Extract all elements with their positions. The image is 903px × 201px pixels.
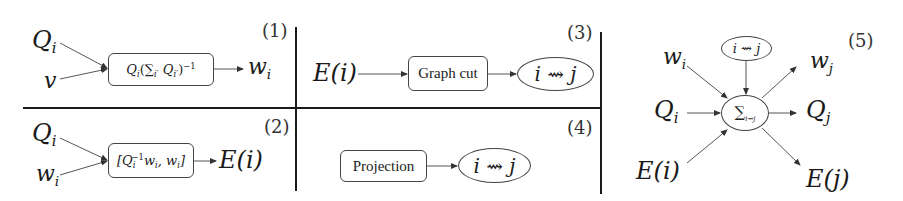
f1-sum: (∑ [140,62,154,77]
panel4-projection-box: Projection [340,150,427,182]
panel1-output-w-base: w [248,54,267,79]
panel4-projection-label: Projection [353,158,415,175]
panel1-input-q-base: Q [32,26,52,54]
f2-comma: , w [158,153,177,168]
panel3-output-label: i ⇝ j [534,62,576,86]
panel1-input-v: v [44,70,56,92]
arrow-sum-to-ej [762,128,800,165]
panel2-output-e: E(i) [219,148,263,172]
qj-base: Q [806,96,826,124]
panel5-output-qj: Qj [806,98,830,126]
wi-sub: i [682,56,686,72]
arrow-w-to-box2 [60,161,107,175]
f1-q: Q [126,62,137,77]
qj-sub: j [826,109,831,127]
f1-sup: −1 [183,61,195,71]
panel3-number: (3) [567,24,593,42]
panel2-input-q-sub: i [52,132,57,150]
panel4-output-ellipse: i ⇝ j [458,148,531,183]
wj-sub: j [829,60,833,76]
panel1-number: (1) [262,22,288,40]
panel5-number: (5) [848,32,874,50]
f2-close: ] [180,153,185,168]
panel3-output-ellipse: i ⇝ j [517,57,594,91]
arrow-q-to-box2 [60,138,107,160]
arrow-ei-to-sum [687,130,727,163]
sum-sub: i⇝j [745,115,755,123]
panel3-input-e: E(i) [313,61,357,85]
panel1-operation-formula: Qi(∑i′ Qi′)−1 [126,61,195,79]
panel5-top-label: i ⇝ j [733,41,760,56]
arrow-wi-to-sum [687,66,727,98]
f1-q2: Q [159,62,174,77]
f2-sup1: −1 [131,152,143,162]
wj-base: w [810,48,829,73]
panel5-input-ei: E(i) [636,159,680,183]
panel1-operation-box: Qi(∑i′ Qi′)−1 [108,53,214,86]
panel4-number: (4) [567,119,593,137]
panel2-number: (2) [264,118,290,136]
panel5-input-wi: wi [663,46,686,71]
panel4-output-label: i ⇝ j [473,154,515,178]
panel3-graph-cut-box: Graph cut [408,56,488,91]
panel1-input-q: Qi [32,28,56,56]
panel2-input-q-base: Q [32,119,52,147]
qi-sub: i [674,109,679,127]
panel1-output-w-sub: i [267,66,271,82]
sum-symbol: ∑ [735,103,746,121]
panel2-input-w-base: w [36,161,55,186]
panel1-output-w: wi [248,56,271,81]
panel5-output-wj: wj [810,50,833,75]
qi-base: Q [654,96,674,124]
panel5-sum-label: ∑i⇝j [735,103,756,123]
panel2-operation-formula: [Qi−1wi, wi] [117,152,185,170]
f2-w: w [144,153,155,168]
panel5-top-ellipse: i ⇝ j [721,36,772,61]
arrow-v-to-box1 [60,69,107,79]
panel2-operation-box: [Qi−1wi, wi] [108,143,194,178]
arrow-sum-to-wj [762,67,796,98]
panel1-input-q-sub: i [52,39,57,57]
wi-base: w [663,44,682,69]
panel2-input-w: wi [36,163,59,188]
arrow-q-to-box1 [60,43,107,68]
panel5-sum-ellipse: ∑i⇝j [721,95,769,131]
panel2-input-q: Qi [32,121,56,149]
panel5-output-ej: E(j) [806,167,850,191]
panel1-input-v-base: v [44,68,56,93]
panel2-input-w-sub: i [55,173,59,189]
panel3-graph-cut-label: Graph cut [418,65,478,82]
panel5-input-qi: Qi [654,98,678,126]
